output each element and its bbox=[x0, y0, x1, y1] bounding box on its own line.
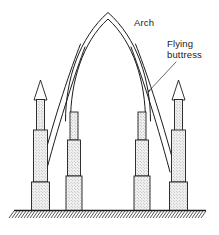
right-pinnacle-shaft bbox=[175, 100, 183, 131]
ground-hatch-tick bbox=[114, 211, 119, 218]
ground-hatch-tick bbox=[39, 211, 44, 218]
ground-hatch-tick bbox=[30, 211, 35, 218]
ground-hatch-tick bbox=[156, 211, 161, 218]
ground-hatch-tick bbox=[9, 211, 14, 218]
ground-hatch-tick bbox=[168, 211, 173, 218]
ground-hatch-tick bbox=[150, 211, 155, 218]
ground-hatch-tick bbox=[183, 211, 188, 218]
ground-hatch-tick bbox=[165, 211, 170, 218]
ground-hatch-tick bbox=[81, 211, 86, 218]
right-pier-mid bbox=[136, 140, 149, 176]
right-outer-pinnacle bbox=[170, 80, 188, 211]
ground-hatch-tick bbox=[111, 211, 116, 218]
ground-hatch-tick bbox=[75, 211, 80, 218]
ground-hatch-tick bbox=[27, 211, 32, 218]
ground-hatch-tick bbox=[78, 211, 83, 218]
ground-hatch-tick bbox=[21, 211, 26, 218]
ground-hatch-tick bbox=[102, 211, 107, 218]
ground-hatch-tick bbox=[144, 211, 149, 218]
right-pier-base bbox=[134, 176, 150, 211]
ground-hatch-tick bbox=[171, 211, 176, 218]
arch-inner-curve bbox=[71, 19, 146, 121]
flying-buttress-leader-line bbox=[148, 62, 176, 92]
ground-hatch-tick bbox=[192, 211, 197, 218]
right-inner-pier bbox=[134, 112, 150, 211]
ground-hatch-tick bbox=[36, 211, 41, 218]
left-pinnacle-spire-icon bbox=[34, 80, 47, 100]
ground-hatch-tick bbox=[90, 211, 95, 218]
ground-hatch-tick bbox=[42, 211, 47, 218]
ground-hatch-tick bbox=[174, 211, 179, 218]
ground-hatch-tick bbox=[99, 211, 104, 218]
ground-hatch-tick bbox=[15, 211, 20, 218]
ground-hatch-tick bbox=[48, 211, 53, 218]
ground-hatch-tick bbox=[147, 211, 152, 218]
ground-hatch-tick bbox=[12, 211, 17, 218]
left-pinnacle-shaft bbox=[37, 100, 45, 131]
ground-hatch-tick bbox=[24, 211, 29, 218]
ground-hatch-tick bbox=[153, 211, 158, 218]
ground-hatch-tick bbox=[18, 211, 23, 218]
ground-hatch-tick bbox=[60, 211, 65, 218]
gothic-arch-diagram: Arch Flying buttress bbox=[0, 0, 219, 235]
ground-hatch-tick bbox=[201, 211, 206, 218]
ground-hatch-tick bbox=[177, 211, 182, 218]
left-pinnacle-mid bbox=[34, 130, 48, 182]
right-pinnacle-base bbox=[170, 182, 188, 211]
ground-hatch-tick bbox=[135, 211, 140, 218]
ground-hatch-tick bbox=[123, 211, 128, 218]
ground-hatch-tick bbox=[120, 211, 125, 218]
ground-hatch-tick bbox=[33, 211, 38, 218]
ground-hatch-tick bbox=[69, 211, 74, 218]
ground-hatch-tick bbox=[105, 211, 110, 218]
ground-hatch-tick bbox=[93, 211, 98, 218]
ground-hatch-tick bbox=[138, 211, 143, 218]
ground-hatch-tick bbox=[51, 211, 56, 218]
ground-hatch-tick bbox=[129, 211, 134, 218]
ground-hatch-tick bbox=[117, 211, 122, 218]
ground-hatch-tick bbox=[45, 211, 50, 218]
left-inner-pier bbox=[66, 112, 82, 211]
ground-hatch-tick bbox=[126, 211, 131, 218]
ground-hatch-tick bbox=[198, 211, 203, 218]
ground-hatch-tick bbox=[66, 211, 71, 218]
ground-hatch-tick bbox=[195, 211, 200, 218]
left-pier-mid bbox=[68, 140, 81, 176]
left-pier-base bbox=[66, 176, 82, 211]
flying-buttress-label-line1: Flying bbox=[167, 38, 193, 49]
left-pinnacle-base bbox=[32, 182, 50, 211]
right-pier-shaft bbox=[138, 112, 146, 140]
ground-hatch-tick bbox=[54, 211, 59, 218]
ground-hatching bbox=[9, 211, 206, 218]
ground-hatch-tick bbox=[63, 211, 68, 218]
ground-hatch-tick bbox=[87, 211, 92, 218]
left-pier-shaft bbox=[70, 112, 78, 140]
ground-hatch-tick bbox=[189, 211, 194, 218]
ground bbox=[9, 211, 206, 219]
ground-hatch-tick bbox=[57, 211, 62, 218]
ground-hatch-tick bbox=[72, 211, 77, 218]
right-pinnacle-spire-icon bbox=[172, 80, 185, 100]
ground-hatch-tick bbox=[96, 211, 101, 218]
ground-hatch-tick bbox=[108, 211, 113, 218]
ground-hatch-tick bbox=[84, 211, 89, 218]
ground-hatch-tick bbox=[186, 211, 191, 218]
flying-buttress-label-line2: buttress bbox=[167, 49, 202, 60]
ground-hatch-tick bbox=[180, 211, 185, 218]
right-pinnacle-mid bbox=[172, 130, 186, 182]
left-outer-pinnacle bbox=[32, 80, 50, 211]
ground-hatch-tick bbox=[159, 211, 164, 218]
ground-hatch-tick bbox=[132, 211, 137, 218]
ground-hatch-tick bbox=[141, 211, 146, 218]
ground-hatch-tick bbox=[162, 211, 167, 218]
arch-label: Arch bbox=[134, 17, 154, 28]
diagram-canvas: Arch Flying buttress bbox=[0, 0, 219, 235]
